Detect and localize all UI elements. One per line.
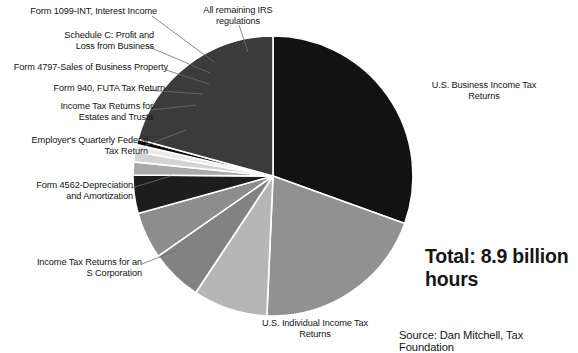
slice-label-schedule-c: Schedule C: Profit and Loss from Busines… (0, 30, 154, 53)
slice-label-form-940: Form 940, FUTA Tax Return (5, 83, 165, 94)
slice-label-estates-and-trusts: Income Tax Returns for Estates and Trust… (13, 101, 153, 124)
slice-label-individual-returns: U.S. Individual Income Tax Returns (250, 318, 380, 341)
slice-label-all-remaining-irs: All remaining IRS regulations (185, 5, 291, 28)
slice-label-form-1099-int: Form 1099-INT, Interest Income (0, 6, 157, 17)
total-annotation: Total: 8.9 billion hours (425, 245, 571, 291)
source-annotation: Source: Dan Mitchell, Tax Foundation (399, 329, 578, 353)
slice-label-form-4562: Form 4562-Depreciation and Amortization (0, 180, 133, 203)
slice-label-employer-quarterly: Employer's Quarterly Federal Tax Return (0, 135, 148, 158)
pie-slice-group: U.S. Business Income Tax Returns — 30.5%… (133, 36, 413, 316)
slice-label-business-returns: U.S. Business Income Tax Returns (424, 80, 544, 103)
slice-label-form-4797: Form 4797-Sales of Business Property (0, 62, 168, 73)
slice-label-s-corporation: Income Tax Returns for an S Corporation (1, 257, 142, 280)
